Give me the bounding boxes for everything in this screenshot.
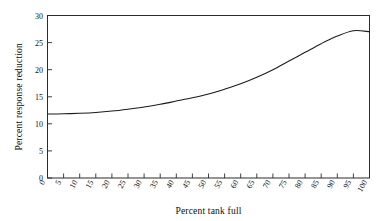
x-tick-label: 20 [100, 179, 112, 190]
x-tick-label: 95 [341, 179, 353, 190]
x-tick-label: 100 [355, 179, 369, 194]
x-tick-label: 70 [261, 179, 273, 190]
x-tick-label: 40 [164, 179, 176, 190]
x-tick-label: 55 [213, 179, 225, 190]
x-tick-label: 85 [309, 179, 321, 190]
y-tick-label: 10 [35, 120, 43, 129]
x-tick-label: 15 [84, 179, 96, 190]
x-tick-label: 50 [196, 179, 208, 190]
y-tick-label: 20 [35, 66, 43, 75]
x-tick-label: 90 [325, 179, 337, 190]
x-tick-label: 30 [132, 179, 144, 190]
x-axis-ticks [48, 174, 370, 179]
x-tick-label: 65 [245, 179, 257, 190]
x-tick-label: 80 [293, 179, 305, 190]
x-tick-label: 5 [54, 179, 64, 187]
x-tick-labels: 0 5 10 15 20 25 30 35 40 45 50 55 60 65 … [37, 179, 369, 194]
line-chart-canvas: 0 5 10 15 20 25 30 [0, 0, 390, 221]
plot-frame [48, 16, 370, 179]
y-tick-label: 15 [35, 93, 43, 102]
x-tick-label: 35 [148, 179, 160, 190]
x-tick-label: 45 [180, 179, 192, 190]
y-axis-title: Percent response reduction [14, 43, 24, 151]
chart-figure: 0 5 10 15 20 25 30 [0, 0, 390, 221]
x-axis-title: Percent tank full [175, 206, 241, 216]
y-tick-label: 5 [39, 147, 43, 156]
x-tick-label: 75 [277, 179, 289, 190]
x-tick-label: 10 [68, 179, 80, 190]
y-axis-ticks [48, 16, 53, 179]
x-tick-label: 25 [116, 179, 128, 190]
y-tick-labels: 0 5 10 15 20 25 30 [35, 12, 43, 183]
y-tick-label: 25 [35, 39, 43, 48]
x-tick-label: 60 [229, 179, 241, 190]
data-series-line [48, 30, 370, 114]
y-tick-label: 30 [35, 12, 43, 21]
